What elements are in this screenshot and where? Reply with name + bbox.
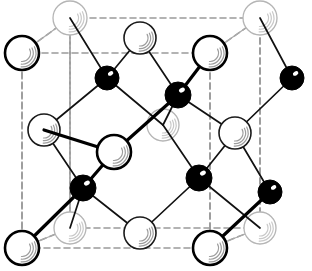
- atom-filled-B-lower-mid: [186, 165, 212, 191]
- atom-filled-B-upper-left: [95, 66, 119, 90]
- atom-filled-B-upper-right: [280, 66, 304, 90]
- atom-open-O-bot-right: [193, 231, 227, 265]
- atom-open-O-front-TL: [5, 36, 39, 70]
- atom-filled-body: [280, 66, 304, 90]
- atom-filled-body: [70, 175, 96, 201]
- atom-open-O-mid-right: [219, 117, 251, 149]
- atom-open-O-center-front: [97, 135, 131, 169]
- atom-filled-body: [258, 180, 282, 204]
- atom-open-O-low-mid: [124, 217, 156, 249]
- atom-filled-B-lower-right: [258, 180, 282, 204]
- atoms-filled-layer: [70, 66, 304, 204]
- atom-filled-body: [186, 165, 212, 191]
- atom-filled-B-upper-mid: [165, 82, 191, 108]
- atom-filled-B-lower-left: [70, 175, 96, 201]
- atom-filled-body: [95, 66, 119, 90]
- crystal-lattice-svg: [0, 0, 312, 271]
- crystal-structure-figure: [0, 0, 312, 271]
- atom-open-O-bot-left: [5, 231, 39, 265]
- atom-open-O-top-mid: [124, 22, 156, 54]
- atom-filled-body: [165, 82, 191, 108]
- atom-open-O-top-right: [193, 36, 227, 70]
